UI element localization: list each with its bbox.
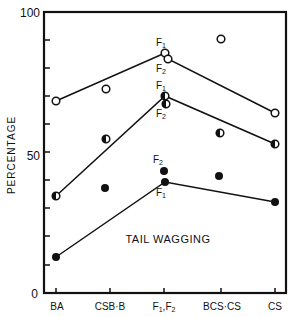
half-ba bbox=[52, 192, 60, 200]
anno-open-f2: F2 bbox=[156, 63, 166, 75]
chart: 100 50 0 PERCENTAGE BA CSB·B F1,F2 BCS·C… bbox=[0, 0, 294, 317]
x-label-f1f2: F1,F2 bbox=[153, 301, 176, 313]
half-bcscs bbox=[216, 129, 224, 137]
y-label-100: 100 bbox=[20, 6, 40, 20]
filled-f1 bbox=[161, 178, 169, 186]
y-label-0: 0 bbox=[31, 287, 38, 301]
open-f2 bbox=[164, 55, 172, 63]
panel-title: TAIL WAGGING bbox=[125, 233, 210, 245]
open-bcscs bbox=[217, 35, 225, 43]
anno-filled-f1: F1 bbox=[156, 187, 166, 199]
anno-open-f1: F1 bbox=[156, 37, 166, 49]
half-f1 bbox=[161, 92, 169, 100]
open-cs bbox=[271, 109, 279, 117]
open-ba bbox=[52, 97, 60, 105]
filled-cs bbox=[271, 198, 279, 206]
filled-bcscs bbox=[215, 172, 223, 180]
x-label-ba: BA bbox=[50, 301, 64, 312]
filled-f2 bbox=[160, 167, 168, 175]
x-label-csbb: CSB·B bbox=[95, 301, 126, 312]
half-cs bbox=[271, 140, 279, 148]
open-csbb bbox=[102, 85, 110, 93]
y-label-50: 50 bbox=[27, 149, 41, 163]
half-f2 bbox=[162, 100, 170, 108]
anno-half-f1: F1 bbox=[156, 80, 166, 92]
anno-filled-f2: F2 bbox=[153, 154, 163, 166]
series-lines bbox=[56, 53, 275, 257]
half-csbb bbox=[102, 135, 110, 143]
filled-csbb bbox=[101, 184, 109, 192]
y-axis-title: PERCENTAGE bbox=[6, 116, 17, 194]
filled-ba bbox=[52, 253, 60, 261]
anno-half-f2: F2 bbox=[156, 108, 166, 120]
x-label-cs: CS bbox=[268, 301, 282, 312]
series-filled bbox=[52, 167, 279, 261]
x-label-bcscs: BCS·CS bbox=[203, 301, 241, 312]
